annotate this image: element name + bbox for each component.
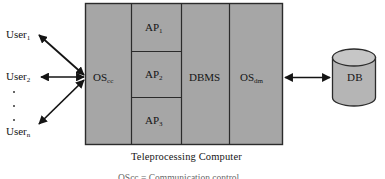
user-2-label: User2 (6, 71, 30, 82)
dbms-label: DBMS (189, 72, 220, 83)
os-dm-label: OSdm (240, 72, 263, 83)
ellipsis-dot (13, 119, 15, 121)
ap-1-label: AP1 (145, 22, 163, 33)
figure-caption: Teleprocessing Computer (131, 152, 242, 163)
ellipsis-dot (13, 105, 15, 107)
user-ellipsis-dots (13, 91, 15, 121)
arrow-user-1 (39, 35, 84, 75)
ap-2-label: AP2 (145, 69, 163, 80)
ellipsis-dot (13, 91, 15, 93)
ap-3-label: AP3 (145, 115, 163, 126)
teleprocessing-diagram: User1 User2 Usern OScc AP1 AP2 AP3 DBMS … (0, 0, 385, 179)
figure-legend-line: OScc = Communication control (118, 174, 239, 179)
db-label: DB (347, 72, 363, 83)
arrow-user-n (39, 80, 84, 124)
user-1-label: User1 (6, 29, 30, 40)
os-cc-label: OScc (93, 72, 113, 83)
user-n-label: Usern (6, 126, 30, 137)
